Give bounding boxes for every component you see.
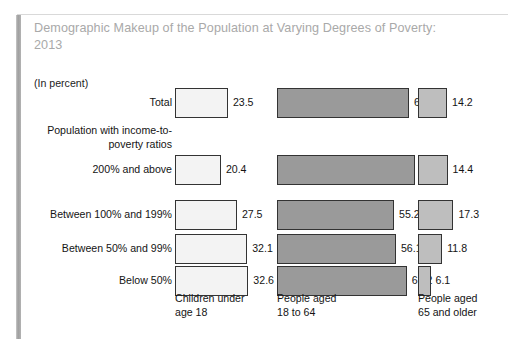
bar-value-label: 17.3 xyxy=(458,208,479,220)
bar xyxy=(175,200,237,230)
bar xyxy=(418,234,442,264)
chart-row: Total23.562.314.2 xyxy=(0,88,516,118)
bar xyxy=(277,234,396,264)
bar-value-label: 14.4 xyxy=(453,163,474,175)
column-series-label: Children underage 18 xyxy=(175,292,245,319)
column-series-label: People aged18 to 64 xyxy=(277,292,337,319)
bar xyxy=(277,200,394,230)
bar-value-label: 6.1 xyxy=(436,274,451,286)
chart-row: 200% and above20.465.214.4 xyxy=(0,155,516,185)
bar xyxy=(175,88,228,118)
bar xyxy=(277,88,409,118)
bar xyxy=(418,200,453,230)
bar xyxy=(418,155,448,185)
figure-canvas: Demographic Makeup of the Population at … xyxy=(0,0,516,339)
bar-value-label: 14.2 xyxy=(452,96,473,108)
bar xyxy=(418,88,447,118)
bar-value-label: 32.6 xyxy=(253,274,274,286)
row-category-label: Between 100% and 199% xyxy=(12,208,172,221)
row-category-label: 200% and above xyxy=(12,163,172,176)
bar xyxy=(175,155,221,185)
group-heading: Population with income-to-poverty ratios xyxy=(34,124,172,151)
row-category-label: Total xyxy=(12,96,172,109)
column-series-label: People aged65 and older xyxy=(418,292,478,319)
chart-row: Between 50% and 99%32.156.111.8 xyxy=(0,234,516,264)
bar-value-label: 20.4 xyxy=(226,163,247,175)
chart-row: Between 100% and 199%27.555.217.3 xyxy=(0,200,516,230)
bar-value-label: 23.5 xyxy=(233,96,254,108)
bar-chart-plot: Population with income-to-poverty ratios… xyxy=(0,0,516,339)
row-category-label: Below 50% xyxy=(12,274,172,287)
bar xyxy=(175,234,247,264)
row-category-label: Between 50% and 99% xyxy=(12,242,172,255)
bar-value-label: 11.8 xyxy=(447,242,467,254)
bar-value-label: 55.2 xyxy=(399,208,420,220)
bar-value-label: 27.5 xyxy=(242,208,263,220)
bar xyxy=(277,155,415,185)
bar-value-label: 32.1 xyxy=(252,242,273,254)
